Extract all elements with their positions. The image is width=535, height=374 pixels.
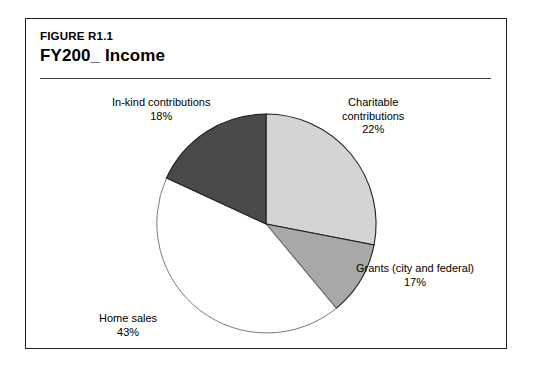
title-divider [40,78,491,79]
slice-label-in-kind: In-kind contributions 18% [112,96,210,123]
slice-label-in-kind-name: In-kind contributions [112,96,210,108]
slice-label-grants-pct: 17% [356,276,474,290]
slice-label-grants-name: Grants (city and federal) [356,262,474,274]
figure-frame: FIGURE R1.1 FY200_ Income In-kind contri… [25,18,507,349]
slice-label-charitable-pct: 22% [342,123,404,137]
slice-label-home-sales-pct: 43% [99,326,157,340]
figure-number: FIGURE R1.1 [40,30,113,42]
slice-label-in-kind-pct: 18% [112,110,210,124]
slice-label-grants: Grants (city and federal) 17% [356,262,474,289]
slice-label-charitable: Charitable contributions 22% [342,96,404,137]
slice-label-charitable-name-line1: Charitable [348,96,398,108]
pie-chart: In-kind contributions 18% Charitable con… [26,81,508,347]
pie-chart-svg [26,81,508,347]
slice-label-home-sales: Home sales 43% [99,312,157,339]
slice-label-home-sales-name: Home sales [99,312,157,324]
slice-label-charitable-name-line2: contributions [342,110,404,124]
page-title: FY200_ Income [40,46,165,66]
